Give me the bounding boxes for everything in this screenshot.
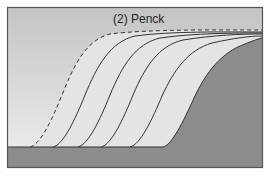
penck-slope-diagram: (2) Penck: [0, 0, 270, 177]
diagram-canvas: [0, 0, 270, 177]
diagram-title: (2) Penck: [113, 12, 164, 26]
